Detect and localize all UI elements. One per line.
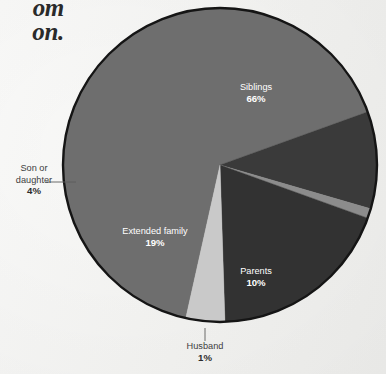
- pie-chart: Siblings66%Parents10%Husband1%Extended f…: [0, 0, 386, 374]
- pie-slices-group: [63, 8, 377, 322]
- slice-label-extended-family: Extended family: [122, 226, 188, 236]
- slice-label-son-or-daughter: Son ordaughter: [16, 163, 52, 185]
- slice-value-son-or-daughter: 4%: [27, 185, 41, 196]
- slice-value-siblings: 66%: [246, 93, 266, 104]
- slice-value-parents: 10%: [246, 277, 266, 288]
- chart-page: om on. Siblings66%Parents10%Husband1%Ext…: [0, 0, 386, 374]
- slice-label-husband: Husband: [187, 341, 224, 351]
- slice-label-parents: Parents: [240, 266, 272, 276]
- slice-value-husband: 1%: [198, 352, 212, 363]
- slice-label-siblings: Siblings: [240, 82, 273, 92]
- slice-value-extended-family: 19%: [145, 237, 165, 248]
